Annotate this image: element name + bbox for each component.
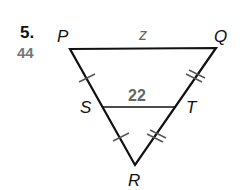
vertex-label-q: Q [214,27,227,46]
vertex-label-t: T [186,98,198,117]
vertex-label-p: P [57,27,69,46]
segment-pq-label: z [138,26,147,43]
triangle-diagram: P Q S T R z 22 [0,0,249,190]
vertex-label-r: R [128,171,140,190]
vertex-label-s: S [80,98,92,117]
segment-st-label: 22 [128,87,146,104]
